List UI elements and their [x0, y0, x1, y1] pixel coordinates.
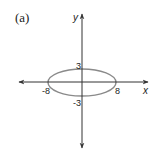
- tick-label-x-neg: -8: [42, 86, 50, 96]
- x-axis-label: x: [142, 85, 149, 96]
- diagram-canvas: (a) y x 3 -3 -8 8: [0, 0, 168, 156]
- tick-label-x-pos: 8: [115, 86, 120, 96]
- tick-label-y-neg: -3: [73, 98, 81, 108]
- y-axis-label: y: [72, 12, 79, 23]
- figure-label: (a): [15, 10, 29, 25]
- ellipse-diagram: (a) y x 3 -3 -8 8: [0, 0, 168, 156]
- tick-label-y-pos: 3: [76, 61, 81, 71]
